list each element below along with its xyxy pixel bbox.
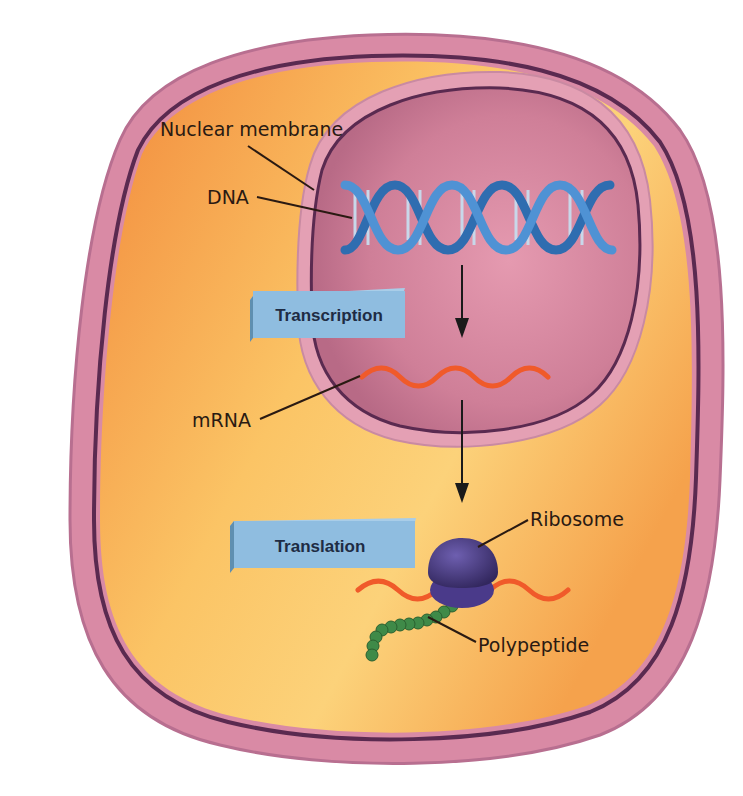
cell-diagram: Transcription Translation Nuclear membra…: [0, 0, 743, 796]
transcription-label: Transcription: [275, 306, 383, 325]
dna-label: DNA: [207, 186, 249, 208]
translation-box: Translation: [230, 518, 416, 573]
ribosome-label: Ribosome: [530, 508, 624, 530]
nuclear-membrane-label: Nuclear membrane: [160, 118, 343, 140]
translation-label: Translation: [275, 537, 366, 556]
nucleus: [297, 72, 652, 447]
mrna-label: mRNA: [192, 409, 251, 431]
ribosome: [428, 538, 498, 608]
transcription-box: Transcription: [250, 288, 405, 342]
polypeptide-label: Polypeptide: [478, 634, 589, 656]
